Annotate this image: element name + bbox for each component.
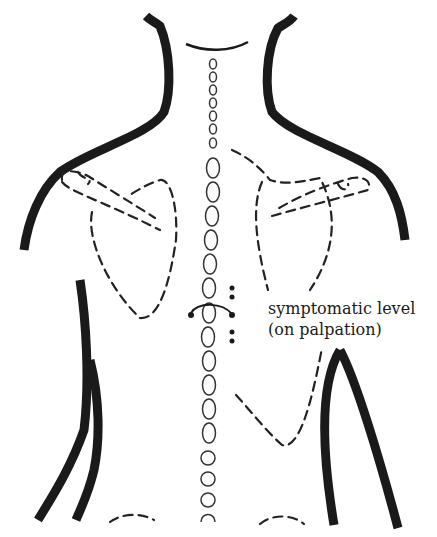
lumbar-vertebrae — [201, 451, 215, 522]
annotation-line-1: symptomatic level — [268, 299, 415, 318]
right-bottom-arc — [260, 517, 304, 525]
annotation-line-2: (on palpation) — [268, 320, 382, 339]
left-clavicle — [62, 171, 160, 230]
thoracic-vertebrae — [202, 158, 220, 443]
right-scapula — [232, 150, 332, 290]
back-diagram — [0, 0, 437, 537]
left-arm-line — [38, 280, 87, 520]
left-bottom-arc — [110, 515, 154, 522]
left-body-outline — [24, 16, 169, 250]
left-scapula — [91, 180, 176, 318]
hairline-curve — [186, 42, 248, 50]
right-torso-line — [325, 350, 340, 525]
right-arm-line — [340, 350, 398, 528]
right-lower-dashed — [236, 348, 322, 445]
right-body-outline — [267, 16, 405, 240]
cervical-vertebrae — [210, 59, 217, 148]
symptomatic-level-marker — [188, 286, 235, 344]
